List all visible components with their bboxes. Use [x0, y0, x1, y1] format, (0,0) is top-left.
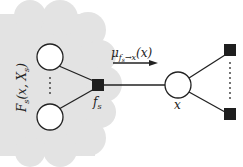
factor-graph-diagram: Fs(x, Xs) fs x μfs→x(x) — [0, 0, 243, 167]
variable-label-x: x — [174, 98, 181, 112]
factor-node-right-bottom — [224, 108, 236, 120]
edge-x-to-right-top — [189, 55, 225, 78]
message-arrow-head — [149, 60, 158, 66]
message-label: μfs→x(x) — [111, 46, 153, 63]
edge-x-to-right-bottom — [189, 92, 225, 112]
variable-node-top — [37, 44, 63, 70]
vertical-ellipsis-right — [229, 62, 231, 99]
variable-node-bottom — [37, 104, 63, 130]
factor-node-fs — [92, 79, 104, 91]
factor-node-right-top — [224, 44, 236, 56]
variable-node-x — [165, 72, 191, 98]
